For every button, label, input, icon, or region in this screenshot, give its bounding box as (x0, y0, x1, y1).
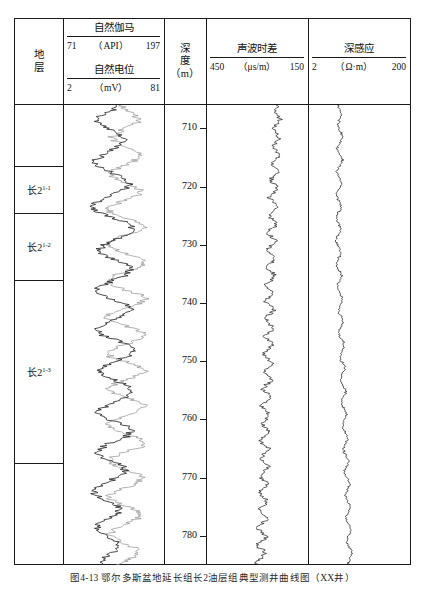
res-scale-max: 200 (392, 62, 406, 72)
gr-sp-header-cell: 自然伽马 71 （API） 197 自然电位 2 （mV） 81 (63, 19, 164, 104)
gr-scale-row: 71 （API） 197 (63, 36, 164, 52)
depth-tick-label: 750 (182, 354, 197, 365)
gr-scale-max: 197 (146, 41, 160, 51)
depth-tick-label: 760 (182, 412, 197, 423)
gr-sp-track-body (64, 105, 164, 565)
sonic-scale-block: 声波时差 450 （μs/m） 150 (206, 44, 308, 73)
strat-boundary (15, 280, 63, 281)
log-figure-page: 地 层 自然伽马 71 （API） 197 自然电位 2 （mV） (0, 0, 425, 589)
log-curve-声波时差 (255, 105, 283, 565)
res-scale-row: 2 （Ω·m） 200 (308, 57, 410, 73)
strat-unit-superscript: 1-3 (42, 366, 51, 373)
gr-sp-curve-svg (64, 105, 164, 565)
depth-tick-label: 730 (182, 238, 197, 249)
depth-scale: 710720730740750760770780 (165, 105, 206, 565)
res-unit: （Ω·m） (335, 59, 373, 73)
resistivity-track-body (309, 105, 410, 565)
strat-column-body: 长21-1长21-2长21-3 (15, 105, 63, 565)
strat-unit-superscript: 1-1 (42, 184, 51, 191)
strat-boundary (15, 463, 63, 464)
gr-scale-block: 自然伽马 71 （API） 197 (63, 23, 164, 52)
strat-header-cell: 地 层 (15, 19, 63, 104)
strat-boundary (15, 166, 63, 167)
strat-unit-superscript: 1-2 (42, 241, 51, 248)
depth-tick-label: 780 (182, 529, 197, 540)
sonic-curve-name: 声波时差 (206, 44, 308, 57)
depth-tick-label: 740 (182, 296, 197, 307)
strat-header-line-2: 层 (34, 62, 45, 74)
depth-header-cell: 深 度 （m） (164, 19, 206, 104)
depth-tick-label: 710 (182, 121, 197, 132)
sonic-curve-svg (207, 105, 308, 565)
strat-boundary (15, 213, 63, 214)
depth-tick-mark (200, 536, 206, 537)
sp-curve-name: 自然电位 (63, 65, 164, 78)
depth-tick-mark (200, 128, 206, 129)
depth-tick-label: 770 (182, 471, 197, 482)
depth-tick-mark (200, 303, 206, 304)
figure-caption: 图4-13 鄂尔多斯盆地延长组长2油层组典型测井曲线图（XX井） (0, 570, 425, 584)
depth-column-body: 710720730740750760770780 (165, 105, 206, 565)
log-curve-自然电位 (104, 105, 149, 565)
log-curve-深感应 (335, 105, 352, 565)
sonic-scale-row: 450 （μs/m） 150 (206, 57, 308, 73)
sp-scale-min: 2 (67, 83, 72, 93)
res-curve-svg (309, 105, 410, 565)
sonic-scale-max: 150 (290, 62, 304, 72)
res-scale-block: 深感应 2 （Ω·m） 200 (308, 44, 410, 73)
depth-tick-mark (200, 361, 206, 362)
log-curve-自然伽马 (90, 105, 135, 565)
depth-tick-mark (200, 419, 206, 420)
sonic-unit: （μs/m） (238, 59, 277, 73)
sp-unit: （mV） (94, 80, 128, 94)
sp-scale-row: 2 （mV） 81 (63, 78, 164, 94)
gr-curve-name: 自然伽马 (63, 23, 164, 36)
strat-unit-label: 长21-1 (15, 182, 63, 197)
sp-scale-block: 自然电位 2 （mV） 81 (63, 65, 164, 94)
depth-tick-label: 720 (182, 180, 197, 191)
res-curve-name: 深感应 (308, 44, 410, 57)
strat-header-title: 地 层 (15, 19, 63, 104)
depth-header-line-2: 度 (180, 55, 191, 67)
res-curvebox (309, 105, 410, 565)
gr-scale-min: 71 (67, 41, 77, 51)
depth-tick-mark (200, 478, 206, 479)
depth-tick-mark (200, 245, 206, 246)
sonic-curvebox (207, 105, 308, 565)
depth-header-line-1: 深 (180, 43, 191, 55)
sonic-header-cell: 声波时差 450 （μs/m） 150 (206, 19, 308, 104)
depth-header-unit: （m） (170, 68, 200, 80)
depth-header-title: 深 度 （m） (164, 19, 206, 104)
gr-sp-curvebox (64, 105, 164, 565)
strat-unit-label: 长21-2 (15, 239, 63, 254)
sonic-track-body (207, 105, 308, 565)
log-chart-frame: 地 层 自然伽马 71 （API） 197 自然电位 2 （mV） (14, 18, 411, 565)
sonic-scale-min: 450 (210, 62, 224, 72)
strat-header-line-1: 地 (34, 49, 45, 61)
res-scale-min: 2 (312, 62, 317, 72)
depth-tick-mark (200, 187, 206, 188)
strat-unit-label: 长21-3 (15, 364, 63, 379)
sp-scale-max: 81 (151, 83, 161, 93)
resistivity-header-cell: 深感应 2 （Ω·m） 200 (308, 19, 410, 104)
gr-unit: （API） (93, 38, 128, 52)
